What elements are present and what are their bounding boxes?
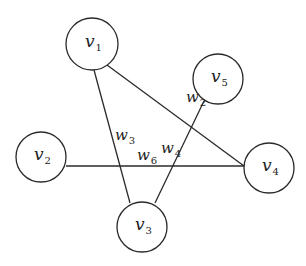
node-v1: v1 <box>66 18 118 70</box>
edge-label-w3: w3 <box>115 126 135 146</box>
nodes-group: v1v2v3v4v5 <box>16 18 294 252</box>
graph-diagram: v1v2v3v4v5 w2w3w4w6 <box>0 0 306 266</box>
node-v2: v2 <box>16 132 66 182</box>
node-v3: v3 <box>117 202 167 252</box>
edge-label-w4: w4 <box>161 139 181 159</box>
node-v4: v4 <box>244 143 294 193</box>
edge-labels-group: w2w3w4w6 <box>115 88 206 166</box>
edge-label-w6: w6 <box>137 146 157 166</box>
